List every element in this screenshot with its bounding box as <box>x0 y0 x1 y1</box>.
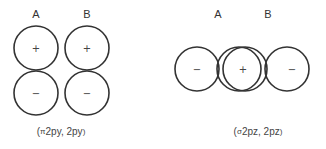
sign-left: − <box>193 64 201 75</box>
label-b: B <box>264 8 271 20</box>
sigma-caption: (σ2pz, 2pz) <box>234 126 283 137</box>
sign-b-bottom: − <box>83 88 91 99</box>
sigma-orbital-panel: A B − + − (σ2pz, 2pz) <box>175 8 309 137</box>
sign-right: − <box>288 64 296 75</box>
orbital-diagram: A B + − + − (π2py, 2py) A B − + − (σ2pz,… <box>0 0 326 149</box>
sign-a-bottom: − <box>32 88 40 99</box>
sign-center: + <box>239 64 247 75</box>
pi-caption: (π2py, 2py) <box>37 126 86 137</box>
label-b: B <box>83 8 90 20</box>
sign-b-top: + <box>83 43 91 54</box>
label-a: A <box>214 8 222 20</box>
sign-a-top: + <box>32 43 40 54</box>
pi-orbital-panel: A B + − + − (π2py, 2py) <box>14 8 109 137</box>
label-a: A <box>32 8 40 20</box>
